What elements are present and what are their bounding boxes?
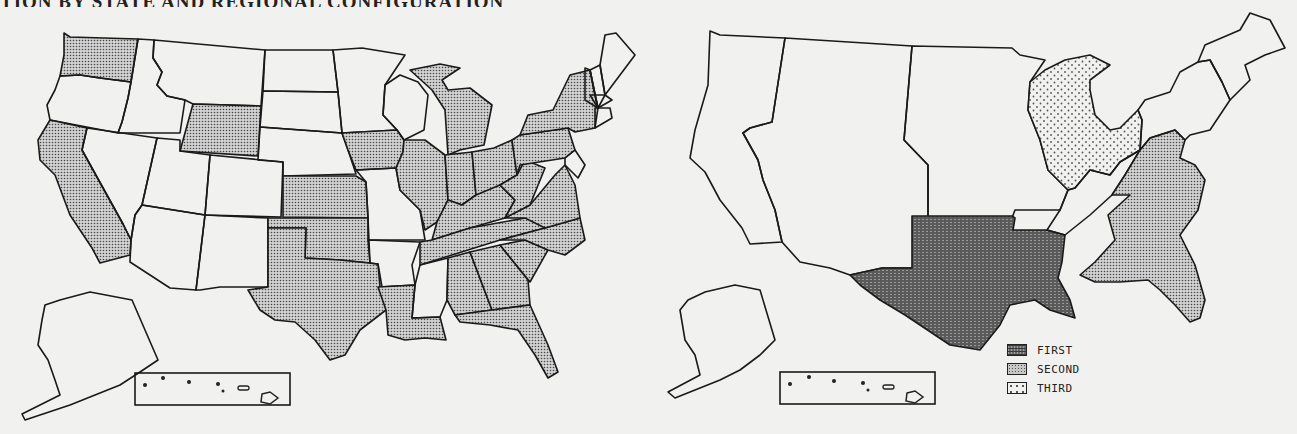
region-mountain[interactable] — [743, 38, 928, 275]
swatch-second — [1007, 363, 1027, 375]
legend-item-third: THIRD — [1007, 379, 1080, 397]
state-me — [600, 33, 635, 95]
state-nd — [263, 50, 338, 92]
state-co — [205, 155, 283, 217]
region-northeast[interactable] — [1138, 60, 1230, 150]
state-ne — [258, 127, 356, 176]
state-ms — [412, 258, 448, 318]
legend-item-first: FIRST — [1007, 341, 1080, 359]
region-great-lakes-third[interactable] — [1028, 55, 1142, 190]
hawaii-inset — [135, 373, 290, 405]
state-fl[interactable] — [455, 305, 558, 378]
region-pacific[interactable] — [690, 31, 785, 244]
state-ia[interactable] — [342, 130, 404, 170]
alaska-inset — [22, 292, 158, 420]
hawaii-inset — [780, 372, 935, 404]
state-mt — [153, 40, 265, 106]
state-az — [130, 205, 205, 290]
region-south-central-first[interactable] — [850, 216, 1075, 350]
state-in[interactable] — [445, 152, 476, 205]
legend-label-second: SECOND — [1037, 363, 1080, 376]
map-legend: FIRST SECOND THIRD — [1007, 341, 1080, 398]
alaska-inset — [668, 285, 775, 398]
swatch-first — [1007, 344, 1027, 356]
swatch-third — [1007, 382, 1027, 394]
legend-label-third: THIRD — [1037, 382, 1073, 395]
region-new-england[interactable] — [1198, 13, 1285, 100]
contiguous-us — [38, 33, 635, 378]
state-sd — [260, 91, 342, 133]
legend-item-second: SECOND — [1007, 360, 1080, 378]
state-nm — [196, 215, 268, 290]
state-map-left — [0, 0, 650, 434]
state-mn — [333, 48, 405, 133]
state-ny[interactable] — [520, 70, 598, 135]
regional-map-right — [650, 0, 1297, 434]
state-wy[interactable] — [180, 104, 261, 156]
legend-label-first: FIRST — [1037, 344, 1073, 357]
state-ks[interactable] — [283, 176, 368, 218]
